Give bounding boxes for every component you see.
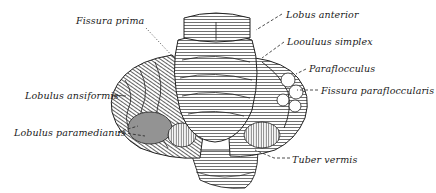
label-lobulus-ansiformis: Lobulus ansiformis — [25, 91, 118, 101]
lobus-anterior-cap — [184, 13, 250, 42]
label-lobus-anterior: Lobus anterior — [286, 10, 359, 20]
label-fissura-prima: Fissura prima — [76, 16, 144, 26]
label-fissura-parafloccularis: Fissura parafloccularis — [321, 86, 434, 96]
label-lobulus-simplex: Loouluus simplex — [287, 37, 373, 47]
leader-lobus-anterior — [256, 14, 282, 30]
cerebellum-illustration: Fissura prima Lobus anterior Loouluus si… — [0, 0, 436, 193]
leader-paraflocculus — [296, 69, 306, 74]
leader-lobulus-simplex — [262, 42, 284, 58]
label-lobulus-paramedianus: Lobulus paramedianus — [14, 128, 126, 138]
label-tuber-vermis: Tuber vermis — [292, 155, 357, 165]
label-paraflocculus: Paraflocculus — [309, 64, 375, 74]
